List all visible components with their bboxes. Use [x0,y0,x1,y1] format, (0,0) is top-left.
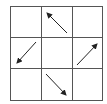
arrow-up-left-icon [47,13,67,33]
grid-diagram [0,0,107,104]
arrow-down-right-icon [46,74,66,95]
grid-lines [11,7,103,101]
arrow-up-right-icon [77,44,97,65]
arrow-down-left-icon [17,42,36,63]
